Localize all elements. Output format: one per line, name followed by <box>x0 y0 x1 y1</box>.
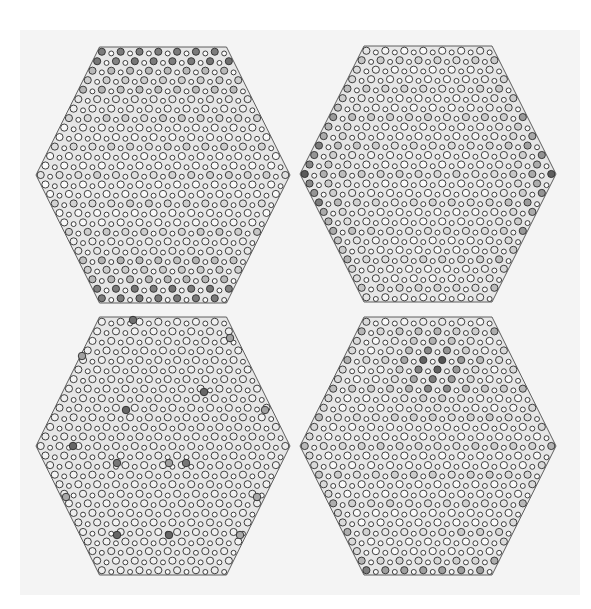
lattice-site <box>56 404 63 411</box>
lattice-site <box>76 155 81 160</box>
lattice-site <box>61 433 68 440</box>
lattice-site <box>443 538 450 545</box>
lattice-site <box>165 184 170 189</box>
lattice-site <box>137 340 142 345</box>
lattice-site <box>156 417 161 422</box>
lattice-site <box>131 366 138 373</box>
lattice-site <box>109 165 114 170</box>
lattice-site <box>359 268 364 273</box>
lattice-site <box>467 275 474 282</box>
lattice-site <box>525 126 530 131</box>
lattice-site <box>123 288 128 293</box>
lattice-site <box>217 288 222 293</box>
lattice-site <box>174 295 181 302</box>
lattice-site <box>104 483 109 488</box>
lattice-site <box>114 231 119 236</box>
lattice-site <box>159 385 166 392</box>
lattice-site <box>206 519 213 526</box>
lattice-site <box>482 135 487 140</box>
lattice-site <box>315 142 322 149</box>
lattice-site <box>444 560 449 565</box>
lattice-site <box>137 108 142 113</box>
lattice-site <box>198 445 203 450</box>
lattice-site <box>462 538 469 545</box>
dark-site <box>113 459 121 467</box>
lattice-site <box>183 200 190 207</box>
lattice-site <box>524 414 531 421</box>
lattice-site <box>179 60 184 65</box>
lattice-site <box>482 59 487 64</box>
lattice-site <box>401 567 408 574</box>
lattice-site <box>420 123 427 130</box>
lattice-site <box>420 85 427 92</box>
lattice-site <box>132 388 137 393</box>
lattice-site <box>155 257 162 264</box>
lattice-site <box>203 260 208 265</box>
lattice-site <box>335 455 340 460</box>
lattice-site <box>378 464 383 469</box>
lattice-site <box>448 142 455 149</box>
lattice-site <box>388 560 393 565</box>
lattice-site <box>236 483 241 488</box>
lattice-site <box>439 256 446 263</box>
lattice-site <box>477 123 484 130</box>
lattice-site <box>325 433 332 440</box>
lattice-site <box>377 208 384 215</box>
lattice-site <box>222 436 227 441</box>
lattice-site <box>401 528 408 535</box>
lattice-site <box>94 134 101 141</box>
lattice-site <box>510 95 517 102</box>
lattice-site <box>164 548 171 555</box>
lattice-site <box>244 96 251 103</box>
lattice-site <box>430 359 435 364</box>
lattice-site <box>212 340 217 345</box>
lattice-site <box>468 359 473 364</box>
lattice-site <box>363 528 370 535</box>
lattice-site <box>487 221 492 226</box>
lattice-site <box>132 117 137 122</box>
lattice-site <box>241 184 246 189</box>
lattice-site <box>306 180 313 187</box>
lattice-site <box>525 493 530 498</box>
lattice-site <box>161 407 166 412</box>
lattice-site <box>155 295 162 302</box>
lattice-site <box>444 369 449 374</box>
lattice-site <box>368 500 375 507</box>
lattice-site <box>114 426 119 431</box>
lattice-site <box>212 279 217 284</box>
lattice-site <box>184 51 189 56</box>
lattice-site <box>511 503 516 508</box>
lattice-site <box>56 442 63 449</box>
lattice-site <box>142 407 147 412</box>
lattice-site <box>383 512 388 517</box>
lattice-site <box>170 426 175 431</box>
lattice-site <box>350 173 355 178</box>
lattice-site <box>330 385 337 392</box>
lattice-site <box>373 221 378 226</box>
lattice-site <box>435 78 440 83</box>
lattice-site <box>236 522 241 527</box>
lattice-site <box>353 237 360 244</box>
lattice-site <box>478 202 483 207</box>
lattice-site <box>108 276 115 283</box>
lattice-site <box>440 107 445 112</box>
lattice-site <box>184 89 189 94</box>
lattice-site <box>396 519 403 526</box>
lattice-site <box>426 445 431 450</box>
lattice-site <box>211 124 218 131</box>
lattice-site <box>226 503 231 508</box>
lattice-site <box>449 397 454 402</box>
lattice-site <box>468 397 473 402</box>
lattice-site <box>306 452 313 459</box>
lattice-site <box>372 337 379 344</box>
lattice-site <box>492 116 497 121</box>
lattice-site <box>142 98 147 103</box>
lattice-site <box>510 366 517 373</box>
lattice-site <box>501 249 506 254</box>
lattice-site <box>109 298 114 303</box>
lattice-site <box>203 397 208 402</box>
lattice-site <box>193 474 198 479</box>
lattice-site <box>363 395 370 402</box>
lattice-site <box>165 127 170 132</box>
lattice-site <box>225 285 232 292</box>
